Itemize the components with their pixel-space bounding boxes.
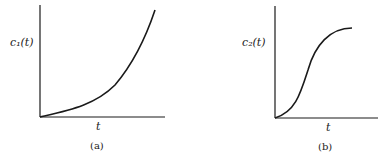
panel-a-curve (40, 10, 155, 117)
figure-canvas (0, 0, 391, 159)
panel-a-plot (40, 5, 165, 117)
panel-a-ylabel: c₁(t) (10, 36, 34, 49)
panel-b-plot (275, 6, 378, 118)
panel-a-xlabel: t (96, 120, 100, 133)
panel-a-caption: (a) (90, 140, 104, 151)
panel-b-caption: (b) (318, 141, 332, 152)
panel-b-curve (275, 28, 352, 118)
panel-b-xlabel: t (326, 121, 330, 134)
panel-b-ylabel: c₂(t) (242, 36, 266, 49)
